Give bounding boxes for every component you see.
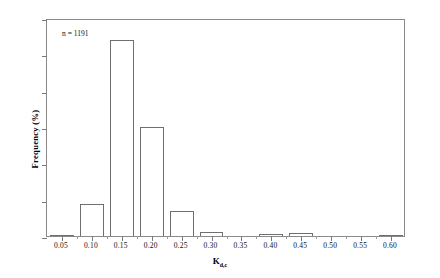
bar-series [47, 20, 404, 236]
x-axis-minor-tick [77, 236, 78, 239]
y-axis-title: Frequency (%) [30, 110, 40, 169]
histogram-figure: Frequency (%) 0.050.100.150.200.250.300.… [0, 0, 440, 278]
x-axis-minor-tick [346, 236, 347, 239]
y-axis-tick [42, 202, 47, 203]
histogram-bar [140, 127, 164, 236]
x-axis-minor-tick [167, 236, 168, 239]
x-axis-minor-tick [316, 236, 317, 239]
x-axis-minor-tick [286, 236, 287, 239]
x-axis-minor-tick [137, 236, 138, 239]
y-axis-tick [42, 20, 47, 21]
x-axis-minor-tick [376, 236, 377, 239]
x-axis-title-subscript: d,c [220, 262, 228, 268]
x-axis-minor-tick [256, 236, 257, 239]
x-axis-minor-tick [107, 236, 108, 239]
x-axis-title: Kd,c [0, 256, 440, 268]
x-axis-minor-tick [197, 236, 198, 239]
histogram-bar [110, 40, 134, 236]
y-axis-tick [42, 129, 47, 130]
x-axis-minor-tick [227, 236, 228, 239]
y-axis-tick [42, 165, 47, 166]
histogram-bar [80, 204, 104, 236]
x-axis-tick-label: 0.60 [370, 241, 410, 250]
sample-size-annotation: n = 1191 [62, 29, 88, 38]
y-axis-tick [42, 93, 47, 94]
plot-area [46, 19, 405, 237]
x-axis-title-main: K [213, 256, 220, 266]
histogram-bar [170, 211, 194, 236]
y-axis-tick [42, 56, 47, 57]
y-axis-tick [42, 238, 47, 239]
